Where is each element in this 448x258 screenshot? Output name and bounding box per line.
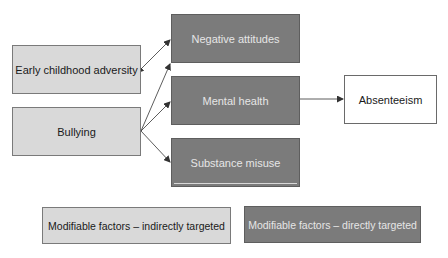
legend-label: Modifiable factors – directly targeted: [248, 219, 417, 231]
edge-bullying-substance-misuse: [141, 131, 170, 162]
node-label: Mental health: [202, 95, 268, 107]
edge-adversity-negative-attitudes: [141, 40, 170, 69]
legend-indirectly-targeted: Modifiable factors – indirectly targeted: [42, 207, 231, 244]
node-label: Bullying: [57, 126, 96, 138]
box-edge-artifact: [174, 183, 297, 184]
edge-bullying-negative-attitudes: [141, 64, 170, 131]
legend-directly-targeted: Modifiable factors – directly targeted: [244, 206, 421, 243]
node-label: Absenteeism: [359, 94, 423, 106]
node-substance-misuse: Substance misuse: [171, 138, 300, 187]
node-early-childhood-adversity: Early childhood adversity: [12, 45, 141, 94]
node-bullying: Bullying: [12, 107, 141, 156]
legend-label: Modifiable factors – indirectly targeted: [48, 220, 225, 232]
node-label: Early childhood adversity: [15, 64, 137, 76]
node-absenteeism: Absenteeism: [344, 75, 437, 124]
node-label: Substance misuse: [191, 157, 281, 169]
node-label: Negative attitudes: [191, 33, 279, 45]
node-negative-attitudes: Negative attitudes: [171, 14, 300, 63]
edge-bullying-mental-health: [141, 102, 170, 131]
node-mental-health: Mental health: [171, 76, 300, 125]
